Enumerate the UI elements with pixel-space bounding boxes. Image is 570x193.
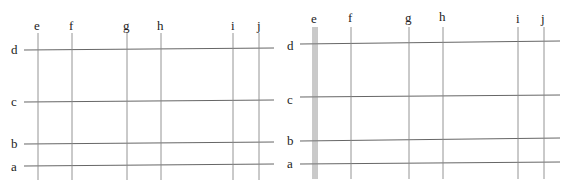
- row-line-a: [24, 164, 274, 166]
- row-line-d: [24, 48, 274, 50]
- column-label-f: f: [348, 10, 353, 25]
- column-label-g: g: [123, 18, 130, 33]
- row-line-c: [24, 100, 274, 102]
- row-line-d: [300, 41, 560, 44]
- row-label-a: a: [287, 156, 293, 171]
- column-label-f: f: [69, 18, 74, 33]
- row-line-a: [300, 162, 560, 164]
- column-line-e-triple: [313, 27, 317, 179]
- grid-diagram: d c b a e f g h i j d c b a e: [0, 0, 570, 193]
- column-label-i: i: [231, 18, 235, 33]
- left-grid: d c b a e f g h i j: [11, 18, 274, 180]
- row-line-b: [24, 142, 274, 144]
- row-label-b: b: [287, 133, 294, 148]
- row-label-a: a: [11, 159, 17, 174]
- column-label-g: g: [405, 10, 412, 25]
- column-label-j: j: [540, 11, 545, 26]
- row-line-c: [300, 95, 560, 97]
- row-label-c: c: [287, 92, 293, 107]
- column-label-j: j: [256, 18, 261, 33]
- column-label-e: e: [311, 11, 317, 26]
- row-label-d: d: [11, 42, 18, 57]
- column-label-h: h: [157, 18, 164, 33]
- row-label-d: d: [287, 38, 294, 53]
- row-line-b: [300, 138, 560, 141]
- column-label-e: e: [34, 18, 40, 33]
- row-label-c: c: [11, 94, 17, 109]
- row-label-b: b: [11, 136, 18, 151]
- column-label-i: i: [516, 11, 520, 26]
- column-label-h: h: [439, 9, 446, 24]
- right-grid: d c b a e f g h i j: [287, 9, 560, 179]
